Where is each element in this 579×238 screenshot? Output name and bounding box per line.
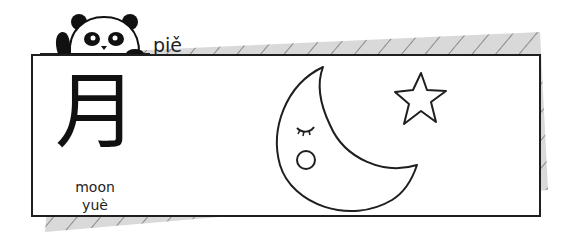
- flashcard-stage: piě 月 moon yuè: [0, 0, 579, 238]
- star-icon: [0, 0, 579, 238]
